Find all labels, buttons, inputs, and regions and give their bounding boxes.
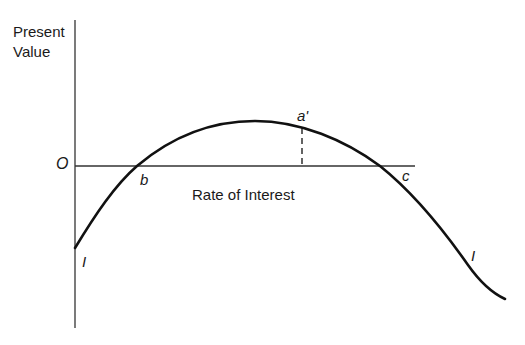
curve-label-left: I bbox=[82, 253, 86, 270]
chart-canvas bbox=[0, 0, 525, 345]
point-b-label: b bbox=[140, 171, 148, 188]
x-axis-label: Rate of Interest bbox=[192, 186, 295, 203]
y-axis-label: Present Value bbox=[13, 22, 65, 62]
y-axis-label-line1: Present bbox=[13, 22, 65, 42]
curve-label-right: I bbox=[471, 247, 475, 264]
point-c-label: c bbox=[402, 167, 410, 184]
point-a-prime-label: a' bbox=[297, 107, 308, 124]
origin-label: O bbox=[56, 155, 68, 173]
present-value-curve bbox=[75, 121, 505, 299]
y-axis-label-line2: Value bbox=[13, 42, 65, 62]
